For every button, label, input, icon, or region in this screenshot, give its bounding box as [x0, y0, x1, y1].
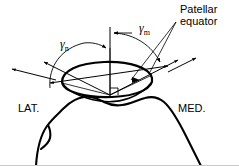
femoral-condyles [36, 97, 201, 166]
lateral-side-label: LAT. [18, 102, 39, 114]
patellar-equator-diagram: γn γm LAT. MED. Patellar equator [0, 0, 239, 166]
callout-line-2: equator [180, 15, 218, 27]
medial-angle-arc [114, 33, 160, 62]
diagram-canvas: γn γm LAT. MED. Patellar equator [0, 0, 239, 166]
lateral-angle-label: γn [60, 37, 69, 53]
medial-side-label: MED. [178, 102, 206, 114]
medial-angle-label: γm [139, 21, 151, 37]
callout-line-1: Patellar [180, 3, 218, 15]
